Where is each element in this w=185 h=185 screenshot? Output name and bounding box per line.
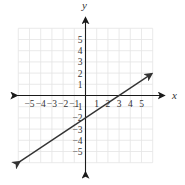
y-tick-label: 5 <box>78 35 83 45</box>
x-tick-label: −4 <box>36 99 46 109</box>
y-tick-label: −4 <box>72 136 82 146</box>
y-tick-label: −5 <box>72 147 82 157</box>
coordinate-plane: −5−4−3−2−11234554321−1−2−3−4−5 x y <box>0 0 185 185</box>
x-tick-label: 3 <box>117 99 122 109</box>
y-tick-label: 2 <box>78 69 83 79</box>
x-tick-label: 4 <box>128 99 133 109</box>
x-tick-label: −3 <box>47 99 57 109</box>
x-tick-label: −2 <box>58 99 68 109</box>
y-axis-label: y <box>81 0 87 11</box>
x-tick-label: 5 <box>139 99 144 109</box>
x-tick-label: 1 <box>94 99 99 109</box>
y-tick-label: 1 <box>78 80 83 90</box>
y-tick-label: 4 <box>78 46 83 56</box>
y-tick-label: −1 <box>72 102 82 112</box>
x-axis-label: x <box>171 89 177 101</box>
x-tick-label: −5 <box>24 99 34 109</box>
y-tick-label: −2 <box>72 113 82 123</box>
y-tick-label: 3 <box>78 57 83 67</box>
